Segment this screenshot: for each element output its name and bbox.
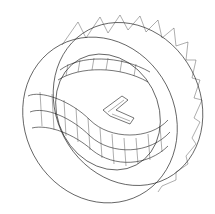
wireframe-figure	[0, 0, 215, 214]
inner-curved-tube	[28, 58, 170, 166]
wireframe-svg	[0, 0, 215, 214]
inner-arrow	[103, 96, 134, 124]
